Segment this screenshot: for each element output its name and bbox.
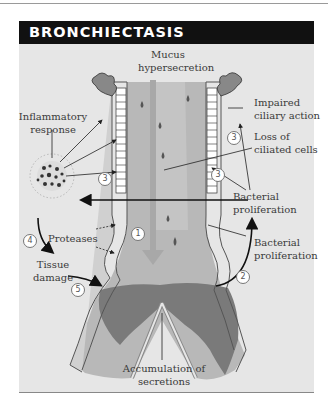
label-loss-of-ciliated-cells: Loss of ciliated cells [254,130,318,156]
mucus-gland-right [217,73,242,96]
step-3-badge-left: 3 [98,172,112,186]
airway [70,73,246,380]
label-proteases: Proteases [48,232,98,245]
label-bacterial-proliferation-upper: Bacterial proliferation [233,190,297,216]
step-5-badge: 5 [71,283,85,297]
step-1-badge: 1 [131,227,145,241]
label-impaired-ciliary-action: Impaired ciliary action [254,96,320,122]
label-mucus-hypersecretion: Mucus hypersecretion [138,48,198,74]
step-2-badge: 2 [236,270,250,284]
bottom-rule [19,392,314,393]
label-bacterial-proliferation-lower: Bacterial proliferation [254,236,318,262]
label-tissue-damage: Tissue damage [30,258,76,284]
step-3-badge-upper-right: 3 [227,131,241,145]
step-3-badge-right: 3 [211,168,225,182]
label-inflammatory-response: Inflammatory response [18,110,88,136]
mucus-gland-left [92,73,117,96]
step-4-badge: 4 [23,234,37,248]
label-accumulation-of-secretions: Accumulation of secretions [122,362,206,388]
